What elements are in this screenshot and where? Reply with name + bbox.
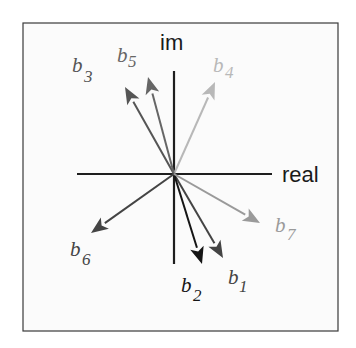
complex-plane-diagram: im real b1b2b3b4b5b6b7	[0, 0, 356, 348]
vector-label-b7: b	[275, 213, 286, 237]
imaginary-axis-label: im	[160, 30, 183, 55]
real-axis-label: real	[282, 162, 319, 187]
vector-subscript-b6: 6	[82, 250, 91, 269]
vector-subscript-b2: 2	[193, 286, 202, 305]
vector-label-b5: b	[117, 43, 128, 67]
vector-label-b4: b	[213, 53, 224, 77]
vector-subscript-b4: 4	[225, 63, 234, 82]
vector-subscript-b1: 1	[239, 277, 248, 296]
vector-subscript-b3: 3	[83, 67, 93, 86]
vector-subscript-b5: 5	[128, 52, 137, 71]
vector-label-b6: b	[70, 237, 81, 261]
vector-label-b1: b	[228, 265, 239, 289]
vector-label-b3: b	[72, 53, 83, 77]
vector-label-b2: b	[181, 273, 192, 297]
